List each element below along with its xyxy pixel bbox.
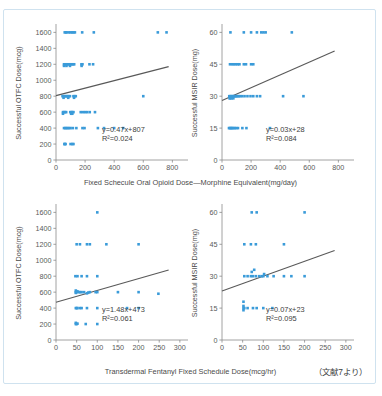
scatter-plot-msir-vs-fentanyl: 015304560050100150200250300y=0.07x+23R²=… xyxy=(188,190,372,378)
svg-text:100: 100 xyxy=(257,343,269,352)
svg-text:600: 600 xyxy=(137,163,149,172)
svg-text:1200: 1200 xyxy=(36,240,52,249)
svg-text:45: 45 xyxy=(210,240,218,249)
svg-text:0: 0 xyxy=(54,343,58,352)
svg-text:1000: 1000 xyxy=(36,76,52,85)
svg-text:0: 0 xyxy=(214,156,218,165)
svg-text:0: 0 xyxy=(54,163,58,172)
svg-text:50: 50 xyxy=(73,343,81,352)
svg-text:60: 60 xyxy=(210,208,218,217)
figure-card: 0200400600800100012001400160002004006008… xyxy=(3,9,376,384)
scatter-plot-otfc-vs-oral-opioid: 0200400600800100012001400160002004006008… xyxy=(10,14,190,198)
svg-text:1600: 1600 xyxy=(36,28,52,37)
svg-text:1400: 1400 xyxy=(36,44,52,53)
svg-text:30: 30 xyxy=(210,92,218,101)
figure-screenshot: 0200400600800100012001400160002004006008… xyxy=(0,0,382,396)
svg-text:60: 60 xyxy=(210,28,218,37)
svg-text:50: 50 xyxy=(239,343,247,352)
svg-text:800: 800 xyxy=(40,272,52,281)
svg-text:45: 45 xyxy=(210,60,218,69)
svg-text:0: 0 xyxy=(48,336,52,345)
svg-text:1000: 1000 xyxy=(36,256,52,265)
svg-text:200: 200 xyxy=(40,320,52,329)
cropped-header-strip xyxy=(0,0,382,9)
svg-text:150: 150 xyxy=(278,343,290,352)
svg-text:y=0.07x+23: y=0.07x+23 xyxy=(266,305,305,314)
svg-text:200: 200 xyxy=(79,163,91,172)
svg-text:0: 0 xyxy=(48,156,52,165)
svg-text:R²=0.095: R²=0.095 xyxy=(266,314,297,323)
svg-text:y=0.47x+807: y=0.47x+807 xyxy=(102,125,145,134)
svg-text:600: 600 xyxy=(40,288,52,297)
svg-text:0: 0 xyxy=(220,343,224,352)
svg-text:15: 15 xyxy=(210,124,218,133)
y-axis-label: Successful MSIR Dose(mg) xyxy=(190,229,199,317)
svg-text:400: 400 xyxy=(40,124,52,133)
y-axis-label: Successful MSIR Dose(mg) xyxy=(190,49,199,137)
svg-text:250: 250 xyxy=(153,343,165,352)
chart-panel-bottom-left: 0200400600800100012001400160005010015020… xyxy=(10,190,190,378)
shared-xlabel-top: Fixed Schecule Oral Opioid Dose—Morphine… xyxy=(4,178,377,187)
svg-text:150: 150 xyxy=(112,343,124,352)
source-note: （文献7より） xyxy=(314,365,367,377)
svg-text:200: 200 xyxy=(245,163,257,172)
y-axis-label: Successful OTFC Dose(mcg) xyxy=(14,46,23,139)
scatter-plot-msir-vs-oral-opioid: 0153045600200400600800y=0.03x+28R²=0.084… xyxy=(188,14,372,198)
svg-text:250: 250 xyxy=(319,343,331,352)
svg-text:800: 800 xyxy=(166,163,178,172)
svg-text:200: 200 xyxy=(40,140,52,149)
svg-text:0: 0 xyxy=(220,163,224,172)
y-axis-label: Successful OTFC Dose(mcg) xyxy=(14,226,23,319)
svg-text:400: 400 xyxy=(108,163,120,172)
svg-text:400: 400 xyxy=(274,163,286,172)
svg-text:200: 200 xyxy=(133,343,145,352)
svg-text:1200: 1200 xyxy=(36,60,52,69)
svg-text:0: 0 xyxy=(214,336,218,345)
svg-text:y=0.03x+28: y=0.03x+28 xyxy=(266,125,305,134)
svg-text:800: 800 xyxy=(332,163,344,172)
svg-text:400: 400 xyxy=(40,304,52,313)
chart-panel-top-left: 0200400600800100012001400160002004006008… xyxy=(10,14,190,198)
chart-panel-bottom-right: 015304560050100150200250300y=0.07x+23R²=… xyxy=(188,190,372,378)
svg-text:R²=0.061: R²=0.061 xyxy=(102,314,133,323)
svg-text:300: 300 xyxy=(340,343,352,352)
svg-text:1400: 1400 xyxy=(36,224,52,233)
svg-text:100: 100 xyxy=(91,343,103,352)
svg-text:200: 200 xyxy=(299,343,311,352)
svg-text:15: 15 xyxy=(210,304,218,313)
scatter-plot-otfc-vs-fentanyl: 0200400600800100012001400160005010015020… xyxy=(10,190,190,378)
svg-text:600: 600 xyxy=(303,163,315,172)
svg-text:y=1.48x+473: y=1.48x+473 xyxy=(102,305,145,314)
svg-text:R²=0.024: R²=0.024 xyxy=(102,134,133,143)
svg-text:1600: 1600 xyxy=(36,208,52,217)
svg-text:300: 300 xyxy=(174,343,186,352)
svg-text:R²=0.084: R²=0.084 xyxy=(266,134,297,143)
svg-text:800: 800 xyxy=(40,92,52,101)
svg-text:30: 30 xyxy=(210,272,218,281)
chart-panel-top-right: 0153045600200400600800y=0.03x+28R²=0.084… xyxy=(188,14,372,198)
svg-text:600: 600 xyxy=(40,108,52,117)
